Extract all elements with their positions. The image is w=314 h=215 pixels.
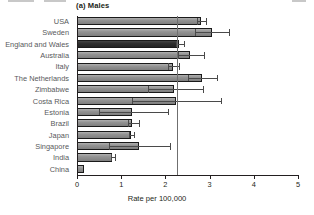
cropped-row-artifact-left xyxy=(8,0,34,2)
ci-cap-low xyxy=(129,132,130,139)
x-tick-label: 2 xyxy=(155,180,175,189)
ci-cap-high xyxy=(139,120,140,127)
bar xyxy=(77,74,202,82)
ci-cap-low xyxy=(111,154,112,161)
category-label: Zimbabwe xyxy=(35,84,69,95)
category-axis-labels: USASwedenEngland and WalesAustraliaItaly… xyxy=(0,16,73,175)
panel-title: (a) Males xyxy=(76,1,109,10)
plot-area xyxy=(77,16,298,175)
bar xyxy=(77,17,201,25)
ci-cap-high xyxy=(221,98,222,105)
bar xyxy=(77,28,212,36)
ci-cap-low xyxy=(132,98,133,105)
category-label: Australia xyxy=(40,50,69,61)
bar-row xyxy=(77,61,298,72)
ci-cap-low xyxy=(188,75,189,82)
ci-cap-high xyxy=(229,29,230,36)
ci-cap-high xyxy=(179,63,180,70)
x-tick-label: 5 xyxy=(288,180,308,189)
ci-cap-low xyxy=(168,63,169,70)
category-label: Estonia xyxy=(44,107,69,118)
x-tick-label: 4 xyxy=(244,180,264,189)
category-label: Costa Rica xyxy=(33,96,69,107)
bar-row xyxy=(77,164,298,175)
bar-row xyxy=(77,16,298,27)
x-tick xyxy=(77,175,78,179)
ci-cap-low xyxy=(148,86,149,93)
bar-row xyxy=(77,73,298,84)
reference-line xyxy=(177,16,178,175)
bar xyxy=(77,153,112,161)
ci-cap-low xyxy=(195,29,196,36)
ci-cap-high xyxy=(170,143,171,150)
category-label: Sweden xyxy=(42,27,69,38)
bar-row xyxy=(77,118,298,129)
x-tick xyxy=(121,175,122,179)
confidence-interval-line xyxy=(128,123,139,124)
bar-row xyxy=(77,39,298,50)
category-label: USA xyxy=(54,16,69,27)
bar xyxy=(77,63,173,71)
confidence-interval-line xyxy=(195,32,229,33)
confidence-interval-line xyxy=(178,55,204,56)
bar xyxy=(77,131,131,139)
ci-cap-high xyxy=(134,132,135,139)
ci-cap-high xyxy=(168,109,169,116)
bar-row xyxy=(77,84,298,95)
confidence-interval-line xyxy=(109,146,170,147)
confidence-interval-line xyxy=(197,21,206,22)
bar-row xyxy=(77,96,298,107)
category-label: England and Wales xyxy=(5,39,69,50)
x-tick-label: 3 xyxy=(200,180,220,189)
x-axis-title: Rate per 100,000 xyxy=(0,194,314,203)
bar xyxy=(77,51,190,59)
bar xyxy=(77,40,179,48)
x-tick xyxy=(254,175,255,179)
ci-cap-high xyxy=(204,52,205,59)
ci-cap-high xyxy=(115,154,116,161)
ci-cap-low xyxy=(197,18,198,25)
bar xyxy=(77,119,132,127)
bar-chart-panel-a-males: (a) Males USASwedenEngland and WalesAust… xyxy=(0,0,314,215)
bar-row xyxy=(77,50,298,61)
y-axis-line xyxy=(77,16,78,175)
bar-row xyxy=(77,130,298,141)
bar-row xyxy=(77,107,298,118)
x-tick xyxy=(210,175,211,179)
ci-cap-high xyxy=(203,86,204,93)
category-label: India xyxy=(53,152,69,163)
category-label: Singapore xyxy=(35,141,69,152)
bar-row xyxy=(77,152,298,163)
confidence-interval-line xyxy=(188,78,218,79)
cropped-row-artifact-mid xyxy=(44,0,66,2)
confidence-interval-line xyxy=(148,89,203,90)
bar xyxy=(77,165,84,173)
x-axis-line xyxy=(77,175,299,176)
category-label: Brazil xyxy=(51,118,69,129)
x-tick-label: 1 xyxy=(111,180,131,189)
ci-cap-high xyxy=(206,18,207,25)
category-label: The Netherlands xyxy=(14,73,69,84)
bar-row xyxy=(77,27,298,38)
confidence-interval-line xyxy=(99,112,168,113)
ci-cap-high xyxy=(217,75,218,82)
x-tick xyxy=(165,175,166,179)
ci-cap-low xyxy=(128,120,129,127)
x-tick xyxy=(298,175,299,179)
ci-cap-low xyxy=(109,143,110,150)
category-label: China xyxy=(50,164,69,175)
x-tick-label: 0 xyxy=(67,180,87,189)
ci-cap-low xyxy=(99,109,100,116)
bar-row xyxy=(77,141,298,152)
ci-cap-high xyxy=(184,41,185,48)
category-label: Italy xyxy=(55,61,69,72)
category-label: Japan xyxy=(49,130,69,141)
cropped-row-artifact-right xyxy=(292,0,306,2)
